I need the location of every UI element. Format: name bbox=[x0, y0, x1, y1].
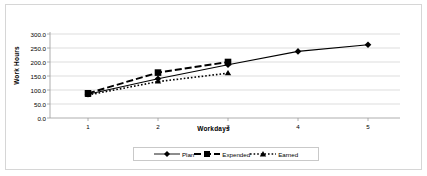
legend-item-earned: Earned bbox=[250, 149, 298, 159]
series-markers-plan bbox=[85, 41, 372, 97]
legend-key-earned-icon bbox=[250, 149, 276, 159]
chart-container: Work Hours Workdays 300.0 250.0 200.0 15… bbox=[0, 0, 427, 176]
y-axis-ticks bbox=[47, 34, 50, 118]
legend-label-plan: Plan bbox=[182, 151, 194, 158]
gridlines bbox=[50, 34, 400, 104]
series-line-plan bbox=[88, 45, 368, 94]
legend-key-plan-icon bbox=[154, 149, 180, 159]
x-axis-ticks bbox=[88, 118, 368, 121]
legend-label-earned: Earned bbox=[278, 151, 298, 158]
chart-legend: Plan Expended Earned bbox=[133, 147, 319, 161]
legend-key-expended-icon bbox=[194, 149, 220, 159]
legend-item-expended: Expended bbox=[194, 149, 250, 159]
legend-label-expended: Expended bbox=[222, 151, 250, 158]
legend-item-plan: Plan bbox=[154, 149, 194, 159]
